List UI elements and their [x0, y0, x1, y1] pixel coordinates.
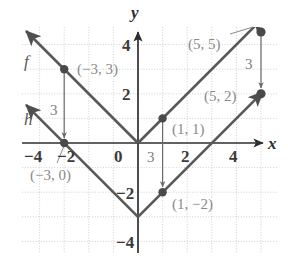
point-neg3-3	[60, 65, 68, 73]
coordinate-graph-figure: −4 −2 0 2 4 4 2 −2 −4 x y f h (−3, 3) (5…	[0, 0, 288, 278]
y-axis-label: y	[131, 4, 139, 21]
curve-label-f: f	[24, 53, 29, 70]
y-tick-2: 2	[122, 86, 131, 103]
x-axis-label: x	[268, 135, 277, 152]
segment-label-left: 3	[50, 103, 58, 118]
segment-label-right: 3	[245, 57, 253, 72]
point-label-1-1: (1, 1)	[172, 122, 205, 137]
origin-label: 0	[114, 148, 123, 165]
curve-label-h: h	[24, 111, 33, 128]
point-1-1	[158, 114, 166, 122]
point-neg3-0	[60, 139, 68, 147]
y-tick-neg4: −4	[116, 234, 134, 251]
x-tick-2: 2	[181, 148, 190, 165]
y-tick-neg2: −2	[116, 185, 134, 202]
graph-canvas	[0, 0, 288, 278]
x-tick-4: 4	[229, 148, 238, 165]
x-tick-neg2: −2	[57, 148, 75, 165]
point-label-1-neg2: (1, −2)	[172, 197, 213, 212]
x-tick-neg4: −4	[24, 148, 42, 165]
point-label-5-2: (5, 2)	[204, 89, 237, 104]
point-label-5-5: (5, 5)	[188, 37, 221, 52]
point-label-neg3-0: (−3, 0)	[30, 168, 71, 183]
point-label-neg3-3: (−3, 3)	[77, 62, 118, 77]
point-5-5	[256, 27, 265, 36]
y-tick-4: 4	[122, 37, 131, 54]
segment-label-middle: 3	[147, 150, 155, 165]
point-1-neg2	[158, 188, 166, 196]
point-5-2	[256, 89, 265, 98]
